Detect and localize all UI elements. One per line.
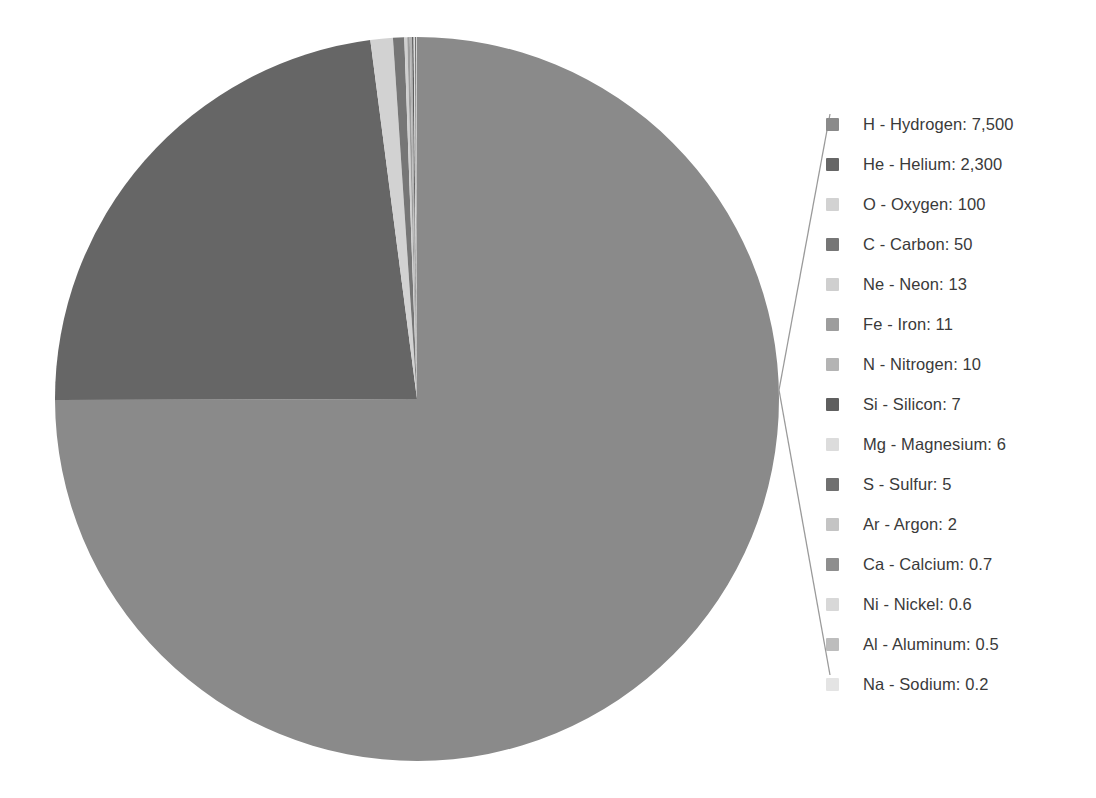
legend-item-oxygen[interactable]: O - Oxygen: 100 — [826, 184, 1088, 224]
leader-line-bottom — [779, 390, 830, 675]
legend-swatch-icon — [826, 678, 839, 691]
legend-item-calcium[interactable]: Ca - Calcium: 0.7 — [826, 544, 1088, 584]
legend-item-nitrogen[interactable]: N - Nitrogen: 10 — [826, 344, 1088, 384]
legend-item-argon[interactable]: Ar - Argon: 2 — [826, 504, 1088, 544]
legend-item-label: Ar - Argon: 2 — [863, 516, 957, 533]
legend-item-hydrogen[interactable]: H - Hydrogen: 7,500 — [826, 104, 1088, 144]
legend-item-label: He - Helium: 2,300 — [863, 156, 1002, 173]
legend-swatch-icon — [826, 558, 839, 571]
legend-swatch-icon — [826, 278, 839, 291]
legend-item-magnesium[interactable]: Mg - Magnesium: 6 — [826, 424, 1088, 464]
legend-swatch-icon — [826, 238, 839, 251]
legend-item-iron[interactable]: Fe - Iron: 11 — [826, 304, 1088, 344]
legend-item-aluminum[interactable]: Al - Aluminum: 0.5 — [826, 624, 1088, 664]
legend-swatch-icon — [826, 638, 839, 651]
pie-slice-group — [55, 37, 779, 761]
legend-swatch-icon — [826, 118, 839, 131]
legend-item-sodium[interactable]: Na - Sodium: 0.2 — [826, 664, 1088, 704]
legend-item-carbon[interactable]: C - Carbon: 50 — [826, 224, 1088, 264]
legend-item-label: C - Carbon: 50 — [863, 236, 973, 253]
legend-item-label: Ca - Calcium: 0.7 — [863, 556, 992, 573]
legend-item-silicon[interactable]: Si - Silicon: 7 — [826, 384, 1088, 424]
legend-item-neon[interactable]: Ne - Neon: 13 — [826, 264, 1088, 304]
legend-swatch-icon — [826, 438, 839, 451]
leader-line-top — [779, 114, 830, 390]
legend-item-label: Fe - Iron: 11 — [863, 316, 953, 333]
legend-swatch-icon — [826, 318, 839, 331]
legend-swatch-icon — [826, 198, 839, 211]
legend-item-label: N - Nitrogen: 10 — [863, 356, 981, 373]
legend-item-label: O - Oxygen: 100 — [863, 196, 986, 213]
pie-slice-helium[interactable] — [55, 40, 417, 400]
legend-swatch-icon — [826, 598, 839, 611]
legend-item-helium[interactable]: He - Helium: 2,300 — [826, 144, 1088, 184]
legend-item-label: Ni - Nickel: 0.6 — [863, 596, 972, 613]
legend-item-label: Na - Sodium: 0.2 — [863, 676, 988, 693]
legend-item-label: S - Sulfur: 5 — [863, 476, 951, 493]
legend-swatch-icon — [826, 478, 839, 491]
legend-swatch-icon — [826, 398, 839, 411]
legend-item-label: Al - Aluminum: 0.5 — [863, 636, 999, 653]
legend-item-label: Mg - Magnesium: 6 — [863, 436, 1006, 453]
legend-swatch-icon — [826, 358, 839, 371]
legend: H - Hydrogen: 7,500He - Helium: 2,300O -… — [826, 104, 1088, 704]
legend-item-label: Si - Silicon: 7 — [863, 396, 961, 413]
legend-item-label: H - Hydrogen: 7,500 — [863, 116, 1013, 133]
pie-chart-area — [54, 36, 780, 762]
legend-swatch-icon — [826, 518, 839, 531]
legend-item-nickel[interactable]: Ni - Nickel: 0.6 — [826, 584, 1088, 624]
legend-item-sulfur[interactable]: S - Sulfur: 5 — [826, 464, 1088, 504]
pie-chart-figure: H - Hydrogen: 7,500He - Helium: 2,300O -… — [0, 0, 1096, 798]
legend-swatch-icon — [826, 158, 839, 171]
legend-item-label: Ne - Neon: 13 — [863, 276, 967, 293]
pie-svg — [54, 36, 780, 762]
